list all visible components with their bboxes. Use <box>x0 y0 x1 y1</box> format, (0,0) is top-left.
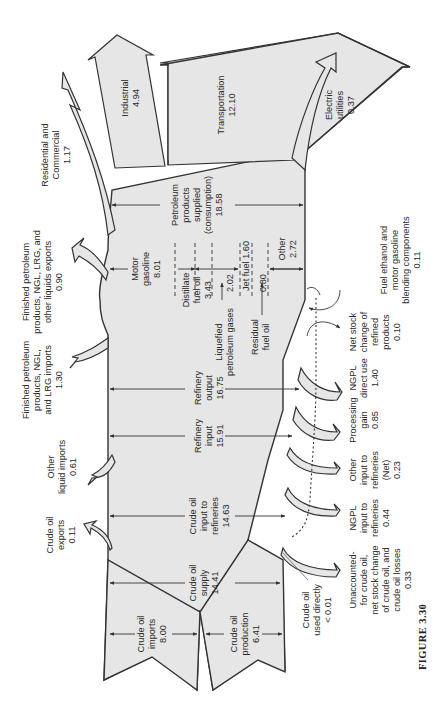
svg-text:0.11: 0.11 <box>412 251 422 268</box>
svg-text:Unaccounted-: Unaccounted- <box>348 551 358 608</box>
svg-text:input to: input to <box>359 503 369 533</box>
svg-text:(consumption): (consumption) <box>203 176 213 234</box>
svg-text:liquid imports: liquid imports <box>57 440 67 495</box>
svg-text:Liquefied: Liquefied <box>214 323 224 360</box>
svg-text:Crude oil: Crude oil <box>301 592 311 629</box>
svg-text:Jet fuel 1.60: Jet fuel 1.60 <box>241 241 251 291</box>
svg-text:fuel oil: fuel oil <box>261 324 271 351</box>
label-lpg-value: 2.02 <box>225 274 235 292</box>
ngpl-direct-use-arrow <box>298 368 342 400</box>
svg-text:Crude oil: Crude oil <box>45 517 55 554</box>
svg-text:< 0.01: < 0.01 <box>323 597 333 623</box>
svg-text:0.37: 0.37 <box>346 96 356 114</box>
svg-text:gain: gain <box>359 411 369 428</box>
svg-text:0.85: 0.85 <box>370 411 380 429</box>
unaccounted-crude-arrow <box>281 548 340 577</box>
processing-gain-arrow <box>293 407 340 440</box>
petroleum-flow-diagram: Residential and Commercial 1.17 Industri… <box>0 0 436 716</box>
svg-text:gasoline: gasoline <box>141 252 151 286</box>
label-finished-exports: Finished petroleum products, NGL, LRG, a… <box>21 230 64 334</box>
svg-text:FIGURE 3.30: FIGURE 3.30 <box>417 604 428 670</box>
svg-text:fuel oil: fuel oil <box>192 277 202 304</box>
svg-text:other liquids exports: other liquids exports <box>43 240 53 323</box>
fuel-ethanol-arrow <box>309 290 340 310</box>
svg-text:0.61: 0.61 <box>68 458 78 476</box>
label-other: Other 2.72 <box>277 238 298 261</box>
label-other-input-refineries: Other input to refineries (Net) 0.23 <box>348 451 402 489</box>
svg-text:Other: Other <box>277 238 287 261</box>
svg-text:output: output <box>204 375 214 401</box>
svg-text:(Net): (Net) <box>381 460 391 480</box>
svg-text:2.02: 2.02 <box>225 274 235 292</box>
svg-text:18.58: 18.58 <box>214 194 224 217</box>
finished-exports-arrow <box>72 238 108 280</box>
svg-text:Fuel ethanol and: Fuel ethanol and <box>379 226 389 294</box>
svg-text:14.63: 14.63 <box>221 505 231 528</box>
svg-text:0.11: 0.11 <box>67 526 77 543</box>
svg-text:1.17: 1.17 <box>62 146 72 164</box>
svg-text:input: input <box>204 426 214 446</box>
finished-imports-arrow <box>70 338 108 368</box>
svg-text:motor gasoline: motor gasoline <box>390 230 400 290</box>
svg-text:products, NGL, LRG, and: products, NGL, LRG, and <box>32 230 42 334</box>
svg-text:16.75: 16.75 <box>215 377 225 400</box>
svg-text:Motor: Motor <box>130 257 140 281</box>
svg-text:0.10: 0.10 <box>392 323 402 341</box>
svg-text:production: production <box>240 613 250 656</box>
label-unaccounted-crude: Unaccounted- for crude oil, net stock ch… <box>348 545 413 614</box>
svg-text:Commercial: Commercial <box>51 130 61 179</box>
svg-text:Electric: Electric <box>324 90 334 121</box>
label-finished-imports: Finished petroleum products, NGL, and LR… <box>21 341 64 419</box>
label-net-stock-change: Net stock change of refined products 0.1… <box>348 311 402 352</box>
label-ngpl-direct-use: NGPL direct use 1.40 <box>348 358 380 398</box>
label-other-liquid-imports: Other liquid imports 0.61 <box>46 440 78 495</box>
svg-text:Other: Other <box>348 459 358 482</box>
svg-text:Finished petroleum: Finished petroleum <box>21 341 31 419</box>
label-residual-value: 0.80 <box>258 274 268 292</box>
svg-text:NGPL: NGPL <box>348 365 358 390</box>
svg-text:change of: change of <box>359 311 369 352</box>
svg-text:Crude oil: Crude oil <box>229 616 239 653</box>
svg-text:refined: refined <box>370 318 380 346</box>
figure-caption: FIGURE 3.30 <box>417 604 428 670</box>
svg-text:direct use: direct use <box>359 358 369 398</box>
svg-text:Crude oil: Crude oil <box>188 498 198 535</box>
svg-text:2.72: 2.72 <box>288 240 298 258</box>
svg-text:1.30: 1.30 <box>54 371 64 389</box>
svg-text:0.23: 0.23 <box>392 461 402 479</box>
svg-text:refineries: refineries <box>210 497 220 535</box>
label-ngpl-input-refineries: NGPL input to refineries 0.44 <box>348 499 391 537</box>
svg-text:Crude oil: Crude oil <box>136 616 146 653</box>
svg-text:refineries: refineries <box>370 499 380 537</box>
svg-text:supply: supply <box>199 569 209 596</box>
svg-text:input to: input to <box>199 501 209 531</box>
svg-text:14.41: 14.41 <box>210 572 220 595</box>
svg-text:refineries: refineries <box>370 451 380 489</box>
svg-text:1.40: 1.40 <box>370 369 380 387</box>
svg-text:Refinery: Refinery <box>193 370 203 405</box>
svg-text:petroleum gases: petroleum gases <box>225 308 235 376</box>
label-residential-commercial: Residential and Commercial 1.17 <box>40 123 72 186</box>
svg-text:supplied: supplied <box>192 188 202 222</box>
svg-text:12.10: 12.10 <box>227 94 237 117</box>
svg-text:imports: imports <box>147 619 157 650</box>
svg-text:products, NGL,: products, NGL, <box>32 349 42 411</box>
svg-text:4.94: 4.94 <box>131 89 141 107</box>
svg-text:Petroleum: Petroleum <box>170 184 180 226</box>
svg-text:Refinery: Refinery <box>193 418 203 453</box>
net-stock-change-arrow <box>307 322 340 336</box>
svg-text:3.43: 3.43 <box>203 281 213 299</box>
svg-text:6.41: 6.41 <box>251 625 261 643</box>
label-crude-used-directly: Crude oil used directly < 0.01 <box>301 584 333 636</box>
svg-text:of crude oil, and: of crude oil, and <box>381 547 391 612</box>
svg-text:Processing: Processing <box>348 397 358 442</box>
svg-text:Other: Other <box>46 456 56 479</box>
svg-text:0.44: 0.44 <box>381 509 391 527</box>
svg-text:15.91: 15.91 <box>215 425 225 448</box>
svg-text:NGPL: NGPL <box>348 505 358 530</box>
svg-text:used directly: used directly <box>312 584 322 636</box>
ngpl-input-arrow <box>285 488 340 516</box>
label-processing-gain: Processing gain 0.85 <box>348 397 380 442</box>
svg-text:Residential and: Residential and <box>40 123 50 186</box>
svg-text:for crude oil,: for crude oil, <box>359 555 369 606</box>
